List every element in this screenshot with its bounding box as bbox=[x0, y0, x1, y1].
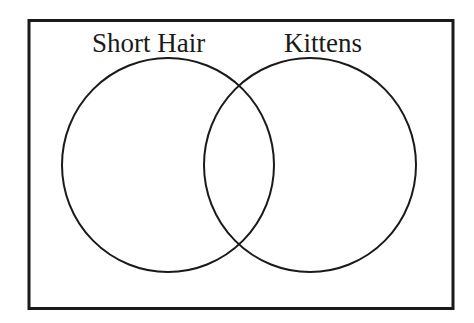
venn-diagram: Short Hair Kittens bbox=[0, 0, 474, 323]
circle-short-hair bbox=[62, 58, 274, 272]
circle-kittens bbox=[204, 58, 416, 272]
label-kittens: Kittens bbox=[284, 28, 362, 58]
label-short-hair: Short Hair bbox=[92, 28, 205, 58]
universal-set-frame bbox=[29, 21, 453, 309]
